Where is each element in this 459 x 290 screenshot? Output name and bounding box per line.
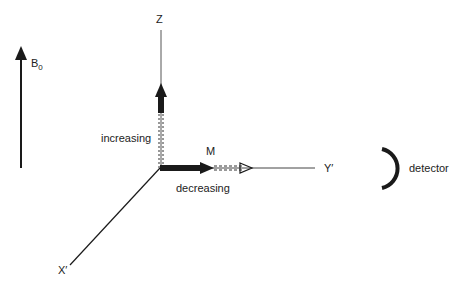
x-axis [70, 168, 160, 265]
y-axis-label: Y′ [324, 163, 333, 174]
z-component-arrow [155, 83, 167, 113]
detector-label: detector [409, 163, 449, 174]
y-component-arrow [160, 162, 214, 174]
b0-label: B0 [31, 58, 43, 69]
decreasing-label: decreasing [176, 183, 230, 194]
diagram-canvas [0, 0, 459, 290]
x-axis-label: X′ [58, 265, 67, 276]
b0-field-arrow [15, 46, 27, 168]
magnetization-label: M [206, 146, 215, 157]
detector-icon [382, 149, 398, 188]
increasing-label: increasing [101, 133, 151, 144]
z-axis-label: Z [156, 14, 163, 25]
b0-subscript: 0 [38, 63, 42, 72]
